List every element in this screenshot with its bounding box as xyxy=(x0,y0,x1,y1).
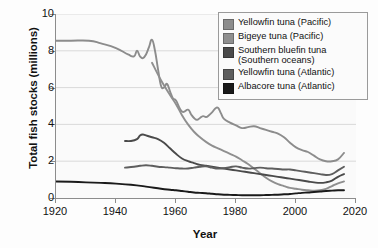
series-line-2 xyxy=(125,135,344,183)
x-tick-label: 1980 xyxy=(212,205,258,217)
legend-item-label: Yellowfin tuna (Pacific) xyxy=(238,17,331,27)
legend-item-label: Southern bluefin tuna (Southern oceans) xyxy=(238,45,326,66)
legend-item-4[interactable]: Albacore tuna (Atlantic) xyxy=(223,81,364,94)
legend-item-label: Bigeye tuna (Pacific) xyxy=(238,31,323,41)
legend-swatch-icon xyxy=(223,69,234,80)
legend-item-2[interactable]: Southern bluefin tuna (Southern oceans) xyxy=(223,45,364,66)
x-tick-label: 2020 xyxy=(332,205,378,217)
chart-figure: Total fish stocks (millions) Year 108642… xyxy=(0,0,378,248)
legend-item-label: Albacore tuna (Atlantic) xyxy=(238,81,335,91)
series-line-4 xyxy=(56,181,344,195)
chart-legend: Yellowfin tuna (Pacific)Bigeye tuna (Pac… xyxy=(218,12,368,100)
y-tick-label: 0 xyxy=(14,191,54,203)
x-tick-label: 1960 xyxy=(152,205,198,217)
y-tick-label: 6 xyxy=(14,81,54,93)
legend-item-0[interactable]: Yellowfin tuna (Pacific) xyxy=(223,17,364,30)
y-tick-label: 4 xyxy=(14,117,54,129)
legend-swatch-icon xyxy=(223,19,234,30)
legend-item-1[interactable]: Bigeye tuna (Pacific) xyxy=(223,31,364,44)
x-tick-label: 1920 xyxy=(32,205,78,217)
legend-item-3[interactable]: Yellowfin tuna (Atlantic) xyxy=(223,67,364,80)
legend-swatch-icon xyxy=(223,47,234,58)
x-axis-title: Year xyxy=(55,228,355,240)
legend-swatch-icon xyxy=(223,83,234,94)
x-tick-label: 1940 xyxy=(92,205,138,217)
legend-swatch-icon xyxy=(223,33,234,44)
legend-item-label: Yellowfin tuna (Atlantic) xyxy=(238,67,334,77)
y-tick-label: 8 xyxy=(14,44,54,56)
y-tick-label: 10 xyxy=(14,7,54,19)
x-tick-label: 2000 xyxy=(272,205,318,217)
y-tick-label: 2 xyxy=(14,154,54,166)
